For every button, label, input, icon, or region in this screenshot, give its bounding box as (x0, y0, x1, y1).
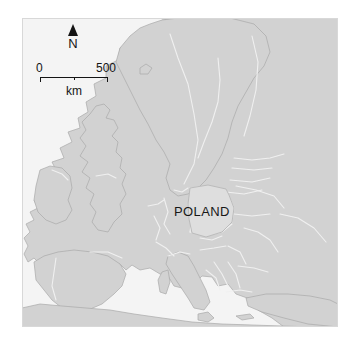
map-frame: POLAND (22, 18, 338, 327)
country-label-poland: POLAND (174, 204, 230, 219)
map-canvas: POLAND (22, 18, 338, 327)
europe-locator-map-figure: POLAND N 0 500 km (0, 0, 360, 349)
